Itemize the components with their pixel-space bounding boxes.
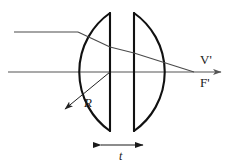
rear-vertex-label: V' bbox=[200, 52, 212, 67]
diagram-canvas: R t V' F' bbox=[0, 0, 230, 165]
rear-focal-point-label: F' bbox=[200, 75, 210, 90]
thick-lens-ray-diagram: R t V' F' bbox=[0, 0, 230, 165]
radius-label: R bbox=[83, 95, 92, 110]
refracted-ray-inside-first-half bbox=[78, 32, 110, 47]
thickness-label: t bbox=[119, 149, 123, 163]
refracted-ray-across-gap bbox=[110, 47, 134, 53]
